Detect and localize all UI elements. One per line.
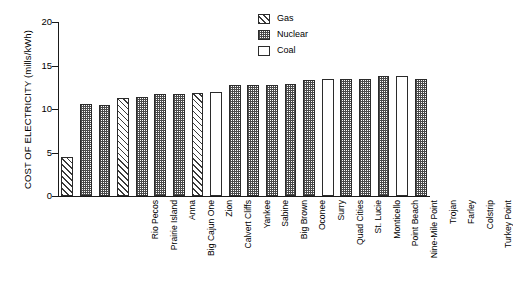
- x-axis-label-big-cajun-one: Big Cajun One: [207, 200, 216, 280]
- bar-trojan: [359, 79, 371, 196]
- x-axis-label-st-lucie: St. Lucie: [374, 200, 383, 280]
- x-axis-label-rio-pecos: Rio Pecos: [151, 200, 160, 280]
- legend-swatch-nuclear-icon: [258, 30, 270, 40]
- x-axis-tick-labels: Rio PecosPrairie IslandAnnaBig Cajun One…: [58, 200, 430, 284]
- bar-quad-cities: [266, 85, 278, 196]
- bar-colstrip: [396, 76, 408, 196]
- x-axis-label-trojan: Trojan: [449, 200, 458, 280]
- bar-big-brown: [210, 92, 222, 196]
- x-axis-label-nine-mile-point: Nine-Mile Point: [430, 200, 439, 280]
- legend-item-nuclear: Nuclear: [258, 28, 308, 41]
- bar-calvert-cliffs: [154, 94, 166, 196]
- x-axis-label-colstrip: Colstrip: [486, 200, 495, 280]
- bar-point-beach: [322, 79, 334, 196]
- bar-turkey-point: [415, 79, 427, 196]
- x-axis-label-big-brown: Big Brown: [300, 200, 309, 280]
- x-axis-label-farley: Farley: [467, 200, 476, 280]
- bar-sabine: [192, 93, 204, 196]
- bar-farley: [378, 76, 390, 196]
- x-axis-line: [58, 196, 430, 197]
- x-axis-label-calvert-cliffs: Calvert Cliffs: [244, 200, 253, 280]
- y-axis-tick-label: 0: [26, 191, 52, 201]
- legend-label-nuclear: Nuclear: [277, 30, 308, 39]
- x-axis-label-surry: Surry: [337, 200, 346, 280]
- y-axis-tick-label: 15: [26, 61, 52, 71]
- x-axis-label-prairie-island: Prairie Island: [170, 200, 179, 280]
- x-axis-label-turkey-point: Turkey Point: [504, 200, 513, 280]
- bar-anna: [99, 105, 111, 196]
- x-axis-label-yankee: Yankee: [263, 200, 272, 280]
- y-axis-tick-label: 5: [26, 148, 52, 158]
- bar-prairie-island: [80, 104, 92, 196]
- x-axis-label-point-beach: Point Beach: [411, 200, 420, 280]
- legend-label-gas: Gas: [277, 14, 294, 23]
- bar-st-lucie: [285, 84, 297, 196]
- x-axis-label-sabine: Sabine: [281, 200, 290, 280]
- x-axis-label-monticello: Monticello: [393, 200, 402, 280]
- y-axis-tick: [52, 196, 58, 197]
- legend-swatch-coal-icon: [258, 46, 270, 56]
- x-axis-label-oconee: Oconee: [318, 200, 327, 280]
- legend-swatch-gas-icon: [258, 14, 270, 24]
- x-axis-label-anna: Anna: [188, 200, 197, 280]
- bar-big-cajun-one: [117, 98, 129, 196]
- bar-series: [58, 22, 430, 196]
- y-axis-tick-label: 10: [26, 104, 52, 114]
- legend-item-coal: Coal: [258, 44, 308, 57]
- x-axis-label-zion: Zion: [225, 200, 234, 280]
- plot-area: 05101520: [58, 22, 430, 196]
- bar-monticello: [303, 80, 315, 196]
- bar-yankee: [173, 94, 185, 196]
- bar-rio-pecos: [61, 157, 73, 196]
- x-axis-label-quad-cities: Quad Cities: [356, 200, 365, 280]
- bar-nine-mile-point: [340, 79, 352, 196]
- bar-zion: [136, 97, 148, 196]
- legend-item-gas: Gas: [258, 12, 308, 25]
- bar-surry: [247, 85, 259, 196]
- legend-label-coal: Coal: [277, 46, 296, 55]
- chart-legend: Gas Nuclear Coal: [258, 12, 308, 60]
- y-axis-tick-label: 20: [26, 17, 52, 27]
- bar-oconee: [229, 85, 241, 196]
